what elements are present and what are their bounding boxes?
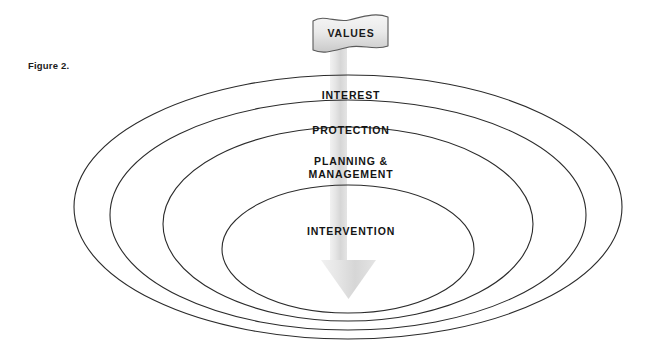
ring-label-planning-management: PLANNING & MANAGEMENT — [231, 155, 471, 180]
ring-label-interest: INTEREST — [231, 89, 471, 102]
ring-label-intervention: INTERVENTION — [231, 225, 471, 238]
ring-label-protection: PROTECTION — [231, 124, 471, 137]
values-flag-label: VALUES — [313, 27, 389, 39]
arrow-head — [321, 260, 376, 299]
figure-container: Figure 2. — [0, 0, 657, 354]
ring-ellipse-1 — [74, 75, 622, 339]
